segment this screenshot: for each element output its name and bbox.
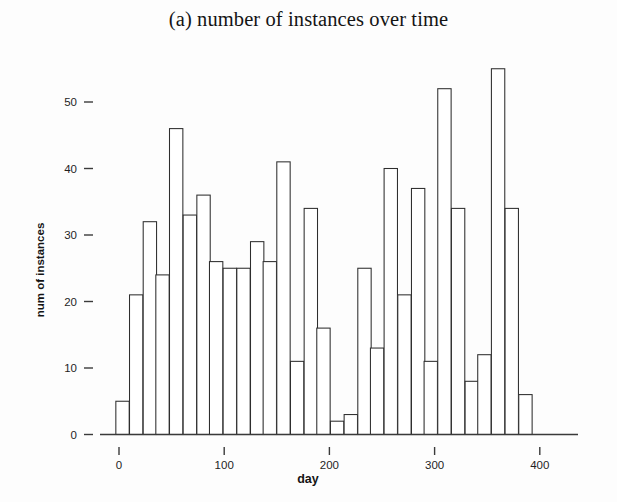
plot-area: 01020304050 0100200300400 day num of ins… [0,0,617,502]
bar [304,208,317,434]
bar [116,401,129,434]
bar [478,355,491,435]
bar [223,268,236,434]
y-tick-label: 30 [64,229,77,241]
bar [209,262,222,435]
bar [465,381,478,434]
bar [251,242,264,435]
bar [183,215,196,434]
x-axis-title: day [297,472,319,486]
bar [344,415,357,435]
x-tick-label: 300 [425,459,444,471]
y-tick-label: 20 [64,296,77,308]
bar [370,348,383,434]
bar [130,295,143,435]
bar [384,169,397,435]
bar [519,395,532,435]
bar-chart-svg: 01020304050 0100200300400 day num of ins… [0,0,617,502]
bar [277,162,290,435]
y-axis-ticks: 01020304050 [64,96,93,441]
bar [491,69,504,435]
x-tick-label: 100 [215,459,234,471]
bar [451,208,464,434]
bar [317,328,330,434]
figure-container: (a) number of instances over time 010203… [0,0,617,502]
bar [170,129,183,435]
x-tick-label: 0 [116,459,122,471]
bar [358,268,371,434]
bar [263,262,276,435]
bar [143,222,156,435]
bar [290,361,303,434]
y-tick-label: 0 [71,429,77,441]
bar [505,208,518,434]
bar [438,89,451,435]
y-tick-label: 50 [64,96,77,108]
x-tick-label: 200 [320,459,339,471]
y-tick-label: 10 [64,362,77,374]
x-tick-label: 400 [530,459,549,471]
bar [398,295,411,435]
bars-group [116,69,532,435]
x-axis-ticks: 0100200300400 [116,447,550,471]
bar [156,275,169,435]
bar [237,268,250,434]
bar [411,188,424,434]
bar [424,361,437,434]
y-tick-label: 40 [64,163,77,175]
y-axis-title: num of instances [34,223,46,318]
bar [330,421,343,434]
bar [197,195,210,434]
